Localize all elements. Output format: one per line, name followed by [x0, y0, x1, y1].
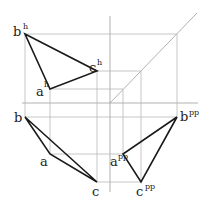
label-b-h-sup: h — [23, 22, 28, 31]
label-a-h: a — [36, 84, 44, 99]
label-b-pp-sup: pp — [189, 108, 199, 117]
triangle-top-view — [25, 34, 97, 89]
projection-diagram: b h c h a h b a c b pp a pp c pp — [0, 0, 212, 207]
label-c-pp-sup: pp — [145, 182, 155, 191]
label-a-pp-sup: pp — [118, 152, 128, 161]
label-a-pp: a — [110, 154, 118, 169]
triangle-side-view — [123, 117, 177, 182]
label-c-h-sup: h — [97, 58, 102, 67]
label-a-h-sup: h — [44, 80, 49, 89]
label-b-pp: b — [180, 109, 188, 124]
label-a: a — [40, 154, 48, 169]
label-c: c — [92, 184, 99, 199]
label-b-h: b — [13, 24, 21, 39]
label-c-h: c — [89, 60, 96, 75]
label-b: b — [14, 110, 22, 125]
triangle-front-view — [25, 117, 97, 182]
label-c-pp: c — [136, 184, 143, 199]
